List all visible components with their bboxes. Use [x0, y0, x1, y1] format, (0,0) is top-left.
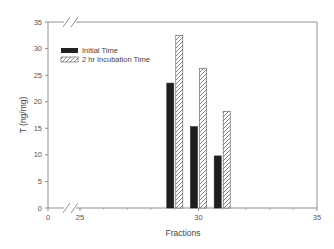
bars [167, 35, 230, 208]
x-tick-label: 35 [313, 213, 321, 222]
y-tick-label: 15 [34, 124, 42, 133]
axis-break-top [63, 17, 78, 27]
x-tick-label: 0 [46, 213, 50, 222]
bar-chart: 05101520253035 0253035 Initial Time 2 hr… [0, 0, 334, 249]
x-axis-ticks: 0253035 [46, 208, 321, 222]
x-tick-label: 25 [76, 213, 84, 222]
y-tick-label: 0 [38, 204, 42, 213]
y-tick-label: 35 [34, 18, 42, 27]
y-tick-label: 20 [34, 97, 42, 106]
y-tick-label: 10 [34, 150, 42, 159]
bar-initial-time [167, 83, 174, 208]
x-tick-label: 30 [194, 213, 202, 222]
bar-incubation-time [176, 35, 183, 208]
y-axis-ticks: 05101520253035 [34, 18, 48, 213]
bar-incubation-time [200, 68, 207, 208]
bar-initial-time [191, 127, 198, 208]
legend-label-incubation: 2 hr Incubation Time [82, 55, 150, 64]
bar-initial-time [214, 156, 221, 208]
y-axis-label: T (ng/mg) [18, 96, 28, 133]
y-tick-label: 30 [34, 44, 42, 53]
legend: Initial Time 2 hr Incubation Time [61, 46, 150, 64]
legend-swatch-incubation [61, 57, 78, 62]
legend-label-initial: Initial Time [82, 46, 118, 55]
x-axis-label: Fractions [166, 228, 201, 238]
legend-swatch-initial [61, 48, 78, 53]
bar-incubation-time [223, 111, 230, 208]
y-tick-label: 5 [38, 177, 42, 186]
y-tick-label: 25 [34, 71, 42, 80]
axis-break-bottom [63, 203, 78, 213]
